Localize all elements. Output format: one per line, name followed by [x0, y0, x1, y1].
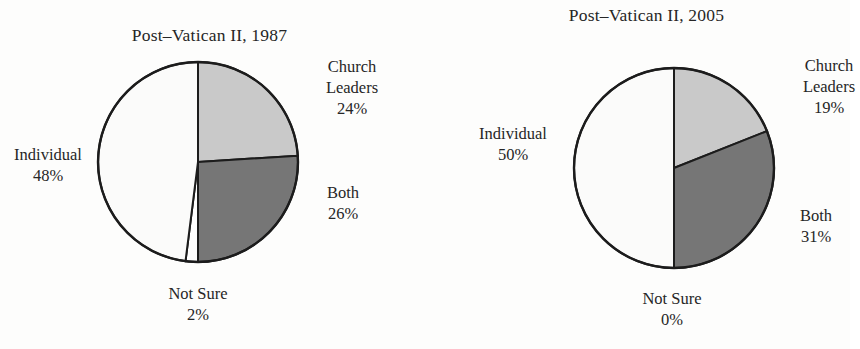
label-not-sure-2005: Not Sure 0%: [610, 288, 734, 330]
label-individual-pct-2005: 50%: [457, 144, 569, 165]
label-not-sure-pct-1987: 2%: [136, 304, 260, 325]
pie-graphic-1987: [96, 60, 300, 264]
label-church-leaders-name2-1987: Leaders: [292, 77, 412, 98]
label-individual-name-2005: Individual: [479, 124, 547, 143]
label-both-1987: Both 26%: [300, 182, 386, 224]
chart-title-2005: Post–Vatican II, 2005: [434, 5, 859, 26]
slice-individual-2005: [574, 68, 674, 268]
label-individual-1987: Individual 48%: [0, 144, 96, 186]
pie-graphic-2005: [572, 66, 776, 270]
label-not-sure-name-1987: Not Sure: [168, 284, 227, 303]
label-church-leaders-name-1987: Church: [328, 57, 377, 76]
pie-svg-2005: [572, 66, 776, 270]
label-not-sure-name-2005: Not Sure: [642, 289, 701, 308]
label-both-pct-2005: 31%: [773, 226, 859, 247]
label-both-name-2005: Both: [800, 206, 832, 225]
label-not-sure-pct-2005: 0%: [610, 309, 734, 330]
pie-chart-1987: Post–Vatican II, 1987 Individual 48% Chu…: [0, 0, 425, 349]
label-church-leaders-pct-2005: 19%: [770, 97, 860, 118]
pie-chart-2005: Post–Vatican II, 2005 Individual 50% Chu…: [425, 0, 850, 349]
label-church-leaders-pct-1987: 24%: [292, 98, 412, 119]
label-individual-name-1987: Individual: [14, 145, 82, 164]
label-church-leaders-name2-2005: Leaders: [770, 76, 860, 97]
slice-individual-1987: [98, 62, 198, 261]
pie-svg-1987: [96, 60, 300, 264]
label-not-sure-1987: Not Sure 2%: [136, 283, 260, 325]
label-both-pct-1987: 26%: [300, 203, 386, 224]
label-individual-pct-1987: 48%: [0, 165, 96, 186]
label-church-leaders-name-2005: Church: [805, 56, 854, 75]
chart-title-1987: Post–Vatican II, 1987: [0, 25, 422, 46]
label-both-2005: Both 31%: [773, 205, 859, 247]
slice-church-leaders-1987: [198, 62, 298, 162]
label-both-name-1987: Both: [327, 183, 359, 202]
slice-both-1987: [198, 156, 298, 262]
label-church-leaders-2005: Church Leaders 19%: [770, 55, 860, 118]
label-individual-2005: Individual 50%: [457, 123, 569, 165]
label-church-leaders-1987: Church Leaders 24%: [292, 56, 412, 119]
